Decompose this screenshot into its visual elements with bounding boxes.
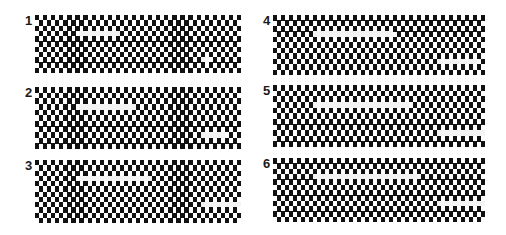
dark-cell [401, 70, 405, 75]
dark-cell [481, 141, 485, 147]
dark-cell [297, 141, 301, 147]
dark-cell [128, 218, 132, 223]
dark-cell [221, 68, 225, 73]
dark-cell [79, 218, 83, 223]
dark-cell [389, 217, 393, 222]
dark-cell [301, 217, 305, 222]
dark-cell [237, 171, 241, 176]
panel-number-label: 3 [25, 159, 32, 172]
dark-cell [35, 143, 39, 149]
dark-cell [71, 218, 75, 223]
dark-cell [35, 68, 39, 73]
dark-cell [365, 217, 369, 222]
dark-cell [83, 68, 87, 73]
dark-cell [124, 143, 128, 149]
dark-cell [148, 68, 152, 73]
dark-cell [417, 70, 421, 75]
upper-defect-stripe [313, 102, 409, 108]
dark-cell [63, 218, 67, 223]
dark-cell [481, 179, 485, 185]
dark-cell [148, 143, 152, 149]
dark-cell [321, 70, 325, 75]
dark-cell [317, 217, 321, 222]
dark-cell [59, 143, 63, 149]
dark-cell [281, 70, 285, 75]
dark-cell [176, 218, 180, 223]
dark-cell [136, 218, 140, 223]
dark-cell [213, 143, 217, 149]
dark-cell [229, 68, 233, 73]
dark-cell [92, 143, 96, 149]
lower-defect-stripe [437, 130, 485, 136]
dark-cell [108, 68, 112, 73]
dark-cell [425, 70, 429, 75]
dark-cell [43, 68, 47, 73]
dark-cell [297, 70, 301, 75]
dark-cell [237, 121, 241, 127]
dark-cell [369, 70, 373, 75]
lower-defect-stripe [437, 201, 485, 206]
dark-cell [333, 217, 337, 222]
dark-cell [55, 218, 59, 223]
dark-cell [437, 217, 441, 222]
dark-cell [481, 37, 485, 43]
dark-cell [75, 143, 79, 149]
checkerboard-pattern [273, 85, 485, 147]
dark-cell [59, 68, 63, 73]
dark-cell [237, 192, 241, 197]
dark-cell [104, 218, 108, 223]
dark-cell [39, 218, 43, 223]
dark-cell [289, 70, 293, 75]
dark-cell [188, 68, 192, 73]
dark-cell [108, 143, 112, 149]
dark-cell [457, 70, 461, 75]
dark-cell [481, 48, 485, 54]
dark-cell [193, 218, 197, 223]
dark-cell [341, 217, 345, 222]
dark-cell [217, 218, 221, 223]
dark-cell [213, 68, 217, 73]
dark-cell [237, 160, 241, 165]
dark-cell [289, 141, 293, 147]
dark-cell [481, 85, 485, 91]
dark-cell [481, 190, 485, 196]
dark-cell [329, 141, 333, 147]
dark-cell [51, 68, 55, 73]
dark-cell [449, 141, 453, 147]
dark-cell [47, 218, 51, 223]
dark-cell [417, 141, 421, 147]
dark-cell [205, 68, 209, 73]
dark-cell [237, 36, 241, 41]
dark-cell [337, 70, 341, 75]
dark-cell [140, 68, 144, 73]
dark-cell [180, 143, 184, 149]
lower-defect-stripe [201, 202, 241, 207]
dark-cell [337, 141, 341, 147]
dark-cell [285, 217, 289, 222]
dark-cell [233, 218, 237, 223]
dark-cell [361, 70, 365, 75]
dark-cell [465, 141, 469, 147]
dark-cell [281, 141, 285, 147]
checkerboard-pattern [35, 160, 241, 223]
dark-cell [313, 70, 317, 75]
dark-cell [409, 141, 413, 147]
dark-cell [140, 143, 144, 149]
dark-cell [205, 143, 209, 149]
dark-cell [481, 108, 485, 114]
panel-number-label: 1 [25, 14, 32, 27]
dark-cell [385, 141, 389, 147]
dark-cell [88, 218, 92, 223]
dark-cell [377, 141, 381, 147]
dark-cell [433, 141, 437, 147]
lower-defect-stripe [201, 132, 225, 138]
dark-cell [152, 218, 156, 223]
dark-cell [481, 119, 485, 125]
dark-cell [369, 141, 373, 147]
upper-defect-stripe [79, 104, 136, 110]
dark-cell [75, 68, 79, 73]
dark-cell [453, 217, 457, 222]
dark-cell [481, 70, 485, 75]
dark-cell [116, 143, 120, 149]
dark-cell [305, 141, 309, 147]
